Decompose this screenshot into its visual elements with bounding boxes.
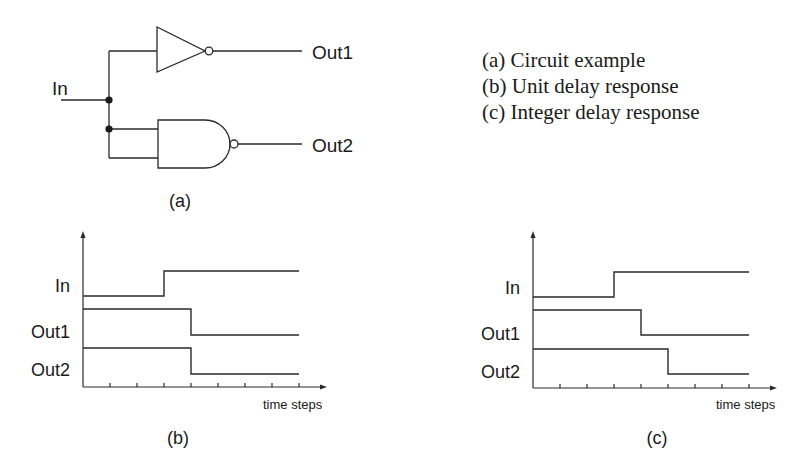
y-axis-arrow-icon	[531, 231, 536, 238]
out2-label: Out2	[312, 135, 353, 156]
signal-in-waveform	[533, 272, 749, 297]
x-axis-label: time steps	[716, 397, 776, 412]
caption-a: (a)	[169, 191, 191, 211]
circuit-diagram: In Out1 Out2 (a)	[52, 27, 353, 211]
caption-c: (c)	[647, 428, 668, 448]
signal-label-out1: Out1	[31, 322, 70, 342]
legend-item-c: (c) Integer delay response	[482, 100, 699, 124]
inverter-gate-icon	[157, 27, 213, 72]
timing-diagram-b: In Out1 Out2 time steps (b)	[31, 231, 327, 448]
signal-out2-waveform	[533, 349, 749, 374]
signal-out2-waveform	[83, 348, 299, 374]
legend-item-a: (a) Circuit example	[482, 48, 645, 72]
timing-diagram-c: In Out1 Out2 time steps (c)	[481, 231, 777, 448]
signal-label-in: In	[505, 278, 520, 298]
input-label: In	[52, 78, 68, 99]
y-axis-arrow-icon	[81, 231, 86, 238]
nand-gate-icon	[158, 120, 238, 168]
signal-label-out2: Out2	[31, 360, 70, 380]
signal-out1-waveform	[83, 309, 299, 335]
figure: In Out1 Out2 (a) (a) Circuit example (b)…	[0, 0, 812, 470]
out1-label: Out1	[312, 42, 353, 63]
signal-out1-waveform	[533, 310, 749, 335]
x-axis-arrow-icon	[770, 386, 777, 391]
junction-dot-icon	[105, 125, 112, 132]
signal-label-out2: Out2	[481, 362, 520, 382]
caption-b: (b)	[167, 428, 189, 448]
signal-in-waveform	[83, 271, 299, 296]
legend-item-b: (b) Unit delay response	[482, 74, 679, 98]
x-axis-label: time steps	[263, 397, 323, 412]
junction-dot-icon	[105, 96, 112, 103]
legend: (a) Circuit example (b) Unit delay respo…	[482, 48, 699, 124]
signal-label-out1: Out1	[481, 324, 520, 344]
signal-label-in: In	[55, 276, 70, 296]
x-axis-arrow-icon	[320, 385, 327, 390]
